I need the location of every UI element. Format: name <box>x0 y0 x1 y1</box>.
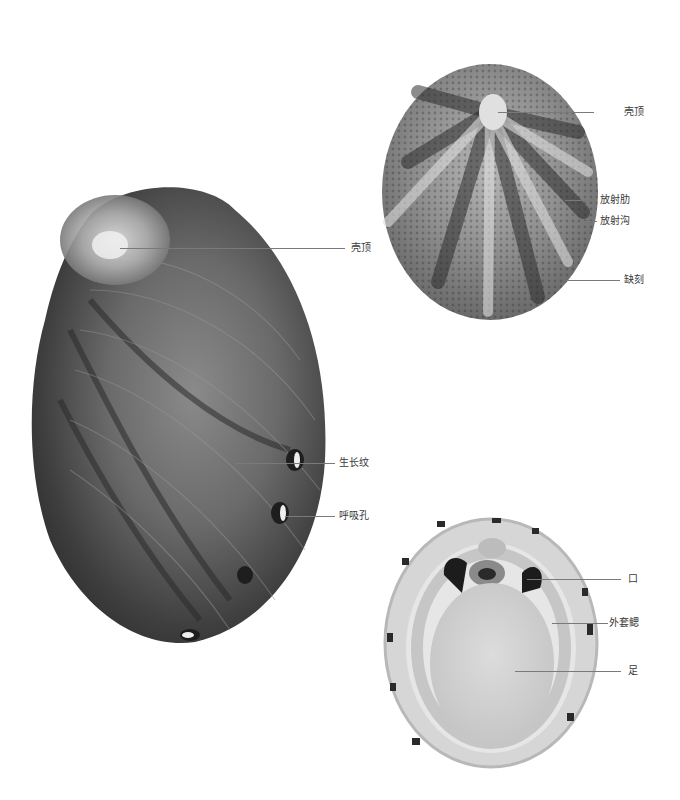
abalone-apex-leader <box>120 248 345 249</box>
abalone-respiratory-pores-label: 呼吸孔 <box>339 510 369 522</box>
limpet-notch-label: 缺刻 <box>624 274 644 286</box>
limpet-mouth-leader <box>527 579 621 580</box>
abalone-apex-label: 壳顶 <box>351 242 371 254</box>
limpet-dorsal-shell-image <box>378 62 603 324</box>
abalone-respiratory-pores-leader <box>285 516 335 517</box>
limpet-ventral-image <box>382 513 600 770</box>
abalone-growth-lines-leader <box>235 463 335 464</box>
limpet-radial-ribs-label: 放射肋 <box>600 194 630 206</box>
abalone-growth-lines-label: 生长纹 <box>339 457 369 469</box>
limpet-apex-leader <box>498 112 594 113</box>
limpet-mouth-label: 口 <box>628 573 638 585</box>
limpet-pallial-gills-leader <box>552 623 608 624</box>
limpet-radial-grooves-label: 放射沟 <box>600 215 630 227</box>
limpet-apex-label: 壳顶 <box>624 106 644 118</box>
limpet-notch-leader <box>566 280 620 281</box>
limpet-foot-label: 足 <box>628 665 638 677</box>
limpet-radial-ribs-leader <box>565 200 597 201</box>
limpet-pallial-gills-label: 外套鳃 <box>609 617 639 629</box>
limpet-radial-grooves-leader <box>580 221 597 222</box>
abalone-shell-image <box>30 180 350 650</box>
limpet-foot-leader <box>515 671 621 672</box>
